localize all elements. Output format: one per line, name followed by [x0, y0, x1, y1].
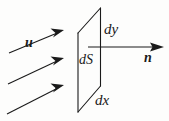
label-dS: dS: [79, 53, 93, 67]
flow-vector-arrow-1: [9, 29, 64, 54]
normal-vector-arrow: [88, 43, 164, 52]
figure-container: dy dS dx u n: [0, 0, 169, 121]
label-dx: dx: [95, 93, 109, 108]
flow-vector-shaft-3: [7, 89, 56, 114]
flow-vector-arrowhead-1: [51, 29, 65, 38]
surface-top-edge: [78, 8, 101, 33]
flow-vector-shaft-2: [8, 62, 56, 85]
flow-vector-arrowhead-2: [51, 57, 65, 66]
label-dy: dy: [104, 22, 118, 37]
label-u: u: [25, 36, 33, 50]
flow-vector-arrow-2: [8, 57, 64, 85]
flow-vector-arrow-3: [7, 84, 64, 115]
label-n: n: [144, 51, 152, 65]
